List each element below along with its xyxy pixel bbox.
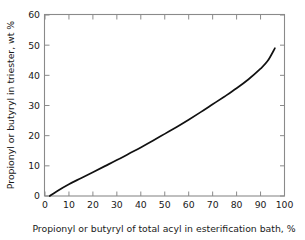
y-axis-title: Propionyl or butyryl in triester, wt % <box>5 21 16 189</box>
y-tick-label-50: 50 <box>28 40 40 51</box>
y-tick-label-40: 40 <box>28 70 40 81</box>
x-tick-label-80: 80 <box>231 199 243 210</box>
x-tick-label-40: 40 <box>135 199 147 210</box>
x-tick-label-50: 50 <box>159 199 171 210</box>
x-tick-label-60: 60 <box>183 199 195 210</box>
x-tick-label-20: 20 <box>87 199 99 210</box>
x-tick-label-30: 30 <box>111 199 123 210</box>
x-tick-label-10: 10 <box>63 199 75 210</box>
y-tick-label-10: 10 <box>28 160 40 171</box>
y-tick-label-20: 20 <box>28 130 40 141</box>
chart-canvas: 0102030405060708090100 0102030405060 Pro… <box>0 0 305 240</box>
y-tick-label-60: 60 <box>28 9 40 20</box>
x-tick-label-90: 90 <box>255 199 267 210</box>
y-tick-label-30: 30 <box>28 100 40 111</box>
chart-figure: 0102030405060708090100 0102030405060 Pro… <box>0 0 305 240</box>
x-tick-label-0: 0 <box>42 199 48 210</box>
y-tick-label-0: 0 <box>34 190 40 201</box>
x-tick-label-100: 100 <box>276 199 294 210</box>
x-axis-title: Propionyl or butyryl of total acyl in es… <box>32 223 295 234</box>
x-tick-label-70: 70 <box>207 199 219 210</box>
